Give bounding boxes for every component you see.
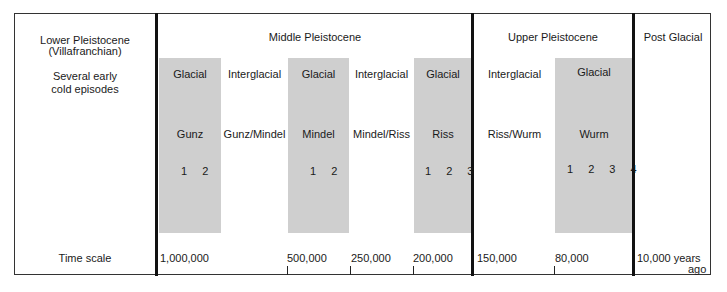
stage-name-wurm: Wurm: [555, 128, 633, 140]
substages-gunz: 1 2: [181, 165, 214, 177]
lower-pleistocene-label: Lower Pleistocene (Villafranchian): [14, 35, 156, 57]
tick-80000: [554, 266, 555, 275]
time-scale-label: Time scale: [14, 252, 156, 264]
stage-type-riss-wurm: Interglacial: [474, 68, 555, 80]
glacial-band-wurm: [555, 58, 633, 233]
time-10000-suffix: ago: [688, 263, 706, 275]
stage-type-wurm: Glacial: [555, 66, 633, 78]
stage-name-gunz-mindel: Gunz/Mindel: [219, 128, 290, 140]
stage-name-mindel: Mindel: [288, 128, 349, 140]
stage-name-mindel-riss: Mindel/Riss: [349, 128, 414, 140]
middle-pleistocene-label: Middle Pleistocene: [158, 31, 472, 43]
glacial-band-gunz: [159, 58, 221, 233]
time-80000: 80,000: [555, 252, 589, 264]
tick-250000: [350, 266, 351, 275]
stage-name-riss: Riss: [414, 128, 472, 140]
divider-upper-post: [632, 13, 635, 276]
time-200000: 200,000: [413, 252, 453, 264]
tick-200000: [413, 266, 414, 275]
early-episodes-note: Several early cold episodes: [14, 70, 156, 96]
time-500000: 500,000: [287, 252, 327, 264]
note-line-2: cold episodes: [14, 83, 156, 96]
glacial-band-riss: [414, 58, 472, 233]
substages-wurm: 1 2 3 4: [567, 163, 643, 175]
time-150000: 150,000: [477, 252, 517, 264]
villafranchian-label: (Villafranchian): [14, 46, 156, 57]
upper-pleistocene-label: Upper Pleistocene: [474, 31, 632, 43]
post-glacial-label: Post Glacial: [635, 31, 711, 43]
stage-type-gunz: Glacial: [159, 68, 221, 80]
stage-type-gunz-mindel: Interglacial: [221, 68, 288, 80]
divider-middle-upper: [471, 13, 474, 276]
stage-type-mindel-riss: Interglacial: [349, 68, 414, 80]
time-1000000: 1,000,000: [160, 252, 209, 264]
time-250000: 250,000: [351, 252, 391, 264]
stage-type-mindel: Glacial: [288, 68, 349, 80]
stage-name-riss-wurm: Riss/Wurm: [474, 128, 555, 140]
substages-mindel: 1 2: [310, 165, 343, 177]
stage-name-gunz: Gunz: [159, 128, 221, 140]
note-line-1: Several early: [14, 70, 156, 83]
tick-500000: [287, 266, 288, 275]
stage-type-riss: Glacial: [414, 68, 472, 80]
glacial-band-mindel: [288, 58, 349, 233]
substages-riss: 1 2 3: [425, 165, 479, 177]
